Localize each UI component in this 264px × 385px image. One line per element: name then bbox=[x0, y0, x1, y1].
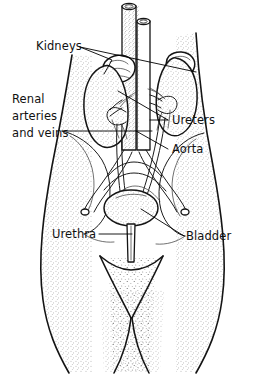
bladder-organ bbox=[104, 190, 158, 226]
label-renal-vessels-line1: Renal bbox=[12, 92, 45, 106]
urethra-tube bbox=[127, 224, 135, 262]
anatomy-illustration: Kidneys Renal arteries and veins Ureters… bbox=[0, 0, 264, 385]
label-renal-vessels-line2: arteries bbox=[12, 109, 57, 123]
label-renal-vessels-line3: and veins bbox=[12, 126, 69, 140]
label-kidneys: Kidneys bbox=[36, 39, 82, 53]
urinary-system-diagram: Kidneys Renal arteries and veins Ureters… bbox=[0, 0, 264, 385]
label-urethra: Urethra bbox=[52, 227, 96, 241]
label-aorta: Aorta bbox=[172, 142, 204, 156]
label-ureters: Ureters bbox=[172, 113, 215, 127]
label-bladder: Bladder bbox=[186, 229, 231, 243]
